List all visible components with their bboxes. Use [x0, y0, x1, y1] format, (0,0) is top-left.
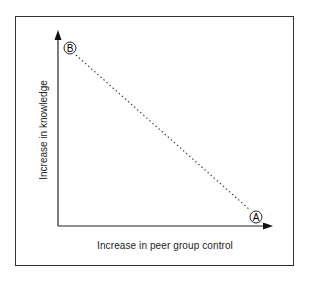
- dotted-connector: [76, 55, 250, 210]
- point-a-label: A: [253, 212, 260, 223]
- y-axis-arrow-icon: [55, 30, 62, 40]
- point-b-label: B: [67, 43, 74, 54]
- x-axis-label: Increase in peer group control: [58, 240, 272, 251]
- point-b: B: [64, 42, 76, 54]
- y-axis-label: Increase in knowledge: [38, 80, 49, 180]
- x-axis-arrow-icon: [263, 223, 273, 230]
- point-a: A: [250, 211, 262, 223]
